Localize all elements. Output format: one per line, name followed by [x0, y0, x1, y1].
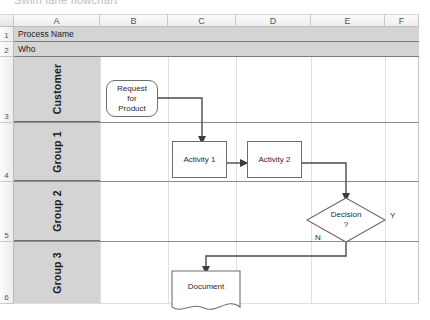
shape-request-for-product[interactable]: Request for Product [106, 80, 158, 117]
activity2-label: Activity 2 [258, 155, 290, 165]
shape-activity-1[interactable]: Activity 1 [172, 141, 227, 178]
document-label-group: Document [172, 276, 240, 298]
request-line-1: Request [117, 84, 147, 94]
connector-decision-no-to-document [206, 242, 346, 270]
activity1-label: Activity 1 [183, 155, 215, 165]
connector-request-to-activity1 [158, 98, 202, 140]
branch-label-yes: Y [390, 211, 395, 220]
flowchart-canvas: Request for Product Activity 1 Activity … [0, 14, 419, 314]
spreadsheet-grid: A B C D E F 1 2 3 4 5 6 Process Name Who… [0, 14, 419, 314]
page-title: Swim lane flowchart [14, 0, 118, 6]
connector-activity2-to-decision [302, 163, 346, 197]
decision-line-1: Decision [331, 210, 362, 220]
document-label: Document [188, 282, 224, 292]
decision-label-group: Decision ? [322, 206, 370, 234]
request-line-2: for [117, 94, 147, 104]
shape-activity-2[interactable]: Activity 2 [247, 141, 302, 178]
branch-label-no: N [315, 233, 321, 242]
decision-line-2: ? [331, 220, 362, 230]
request-line-3: Product [117, 104, 147, 114]
